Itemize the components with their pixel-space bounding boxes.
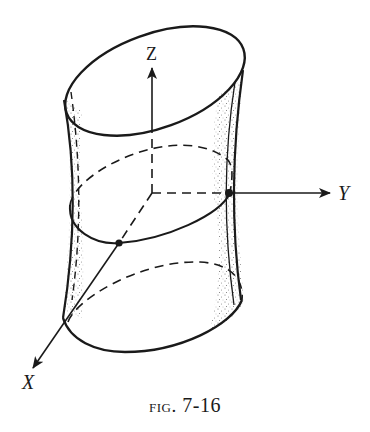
hyperboloid-diagram: Z Y X: [0, 0, 370, 432]
x-intersection-point: [115, 239, 122, 246]
y-intersection-point: [225, 189, 233, 197]
x-axis-label: X: [21, 371, 35, 393]
caption-prefix: fig.: [149, 395, 177, 416]
figure-caption: fig. 7-16: [0, 394, 370, 417]
z-axis-label: Z: [146, 44, 157, 64]
waist-ellipse-front: [70, 193, 230, 243]
y-axis-label: Y: [338, 182, 351, 204]
caption-number: 7-16: [182, 394, 221, 416]
x-axis-dashed: [119, 193, 152, 243]
waist-ellipse-back: [70, 145, 232, 205]
